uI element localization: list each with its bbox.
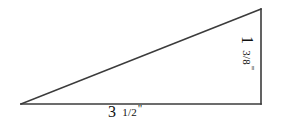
- base-whole-number: 3: [108, 103, 116, 120]
- height-inch-mark: ": [245, 66, 257, 71]
- base-fraction: 1/2: [122, 106, 137, 118]
- hypotenuse-line: [21, 9, 261, 104]
- height-whole-number: 1: [239, 36, 256, 44]
- base-inch-mark: ": [138, 102, 143, 114]
- figure-canvas: 31/2" 13/8": [0, 0, 290, 124]
- height-fraction: 3/8: [241, 50, 253, 65]
- height-dimension-label: 13/8": [239, 36, 256, 71]
- base-dimension-label: 31/2": [108, 103, 143, 120]
